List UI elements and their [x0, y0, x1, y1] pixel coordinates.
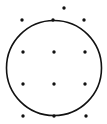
grid-dot: [21, 114, 24, 117]
grid-dot: [52, 114, 55, 117]
grid-dot: [21, 50, 24, 53]
grid-dot: [84, 114, 87, 117]
grid-dot: [52, 50, 55, 53]
dot-grid-circle-diagram: [0, 0, 107, 124]
grid-dot: [83, 50, 86, 53]
grid-dot: [52, 82, 55, 85]
grid-dot: [82, 18, 85, 21]
grid-dot: [62, 6, 65, 9]
grid-dot: [51, 18, 54, 21]
grid-dot: [21, 82, 24, 85]
grid-dot: [20, 18, 23, 21]
grid-dot: [83, 82, 86, 85]
